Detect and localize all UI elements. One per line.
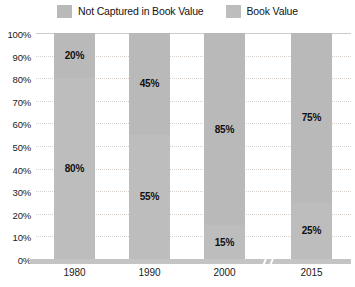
bar-segment-label: 25% xyxy=(302,225,322,236)
bar-segment-not-captured[interactable]: 85% xyxy=(204,33,245,225)
y-tick-label: 70% xyxy=(13,96,31,107)
bar-segment-label: 75% xyxy=(302,112,322,123)
bar-segment-label: 20% xyxy=(65,50,85,61)
bar-segment-book-value[interactable]: 25% xyxy=(291,203,332,260)
bar-2015[interactable]: 75% 25% xyxy=(291,33,332,259)
bar-2000[interactable]: 85% 15% xyxy=(204,33,245,259)
bar-1980[interactable]: 20% 80% xyxy=(54,33,95,259)
stacked-bar-chart: Not Captured in Book Value Book Value 10… xyxy=(0,0,355,287)
y-tick-label: 50% xyxy=(13,142,31,153)
y-tick-label: 20% xyxy=(13,209,31,220)
x-tick-label-2015: 2015 xyxy=(291,267,332,278)
legend-swatch-icon xyxy=(57,5,72,18)
bar-segment-label: 45% xyxy=(140,78,160,89)
legend-item-not-captured: Not Captured in Book Value xyxy=(57,5,203,18)
bar-segment-label: 55% xyxy=(140,191,160,202)
bar-segment-not-captured[interactable]: 20% xyxy=(54,33,95,78)
bar-1990[interactable]: 45% 55% xyxy=(129,33,170,259)
bar-segment-label: 85% xyxy=(215,124,235,135)
legend-item-book-value: Book Value xyxy=(226,5,298,18)
y-tick-label: 80% xyxy=(13,74,31,85)
y-tick-label: 60% xyxy=(13,119,31,130)
y-tick-label: 100% xyxy=(8,29,32,40)
y-tick-label: 0% xyxy=(18,255,31,266)
bar-segment-not-captured[interactable]: 45% xyxy=(129,33,170,135)
y-tick-label: 90% xyxy=(13,51,31,62)
y-tick-label: 10% xyxy=(13,232,31,243)
x-tick-label-1980: 1980 xyxy=(54,267,95,278)
legend-item-label: Not Captured in Book Value xyxy=(78,5,203,17)
plot-area: 100% 90% 80% 70% 60% 50% 40% 30% 20% 10%… xyxy=(36,33,351,259)
x-axis-labels: 1980 1990 2000 2015 xyxy=(36,267,351,285)
bar-segment-book-value[interactable]: 80% xyxy=(54,78,95,259)
bar-segment-not-captured[interactable]: 75% xyxy=(291,33,332,203)
y-tick-label: 40% xyxy=(13,164,31,175)
bar-segment-label: 80% xyxy=(65,163,85,174)
legend-item-label: Book Value xyxy=(247,5,298,17)
legend-swatch-icon xyxy=(226,5,241,18)
x-tick-label-2000: 2000 xyxy=(204,267,245,278)
x-axis-line xyxy=(30,259,351,264)
y-tick-label: 30% xyxy=(13,187,31,198)
chart-legend: Not Captured in Book Value Book Value xyxy=(0,0,355,22)
bar-segment-label: 15% xyxy=(215,237,235,248)
bar-segment-book-value[interactable]: 55% xyxy=(129,135,170,259)
bar-group: 20% 80% 45% 55% 85% 15% xyxy=(36,33,351,259)
x-tick-label-1990: 1990 xyxy=(129,267,170,278)
bar-segment-book-value[interactable]: 15% xyxy=(204,225,245,259)
